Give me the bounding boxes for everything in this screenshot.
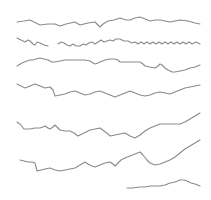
sketch-background xyxy=(0,0,211,200)
drawing-canvas xyxy=(0,0,211,200)
sketch-svg xyxy=(0,0,211,200)
